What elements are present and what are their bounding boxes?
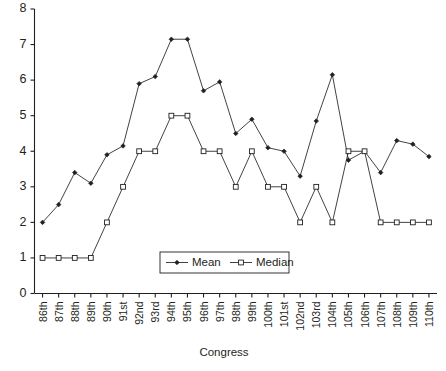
y-tick-label: 5 [20,108,27,122]
line-chart: 012345678 86th87th88th89th90th91st92nd93… [0,0,446,371]
x-tick-label: 97th [214,301,226,322]
x-tick-label: 105th [342,301,354,327]
x-tick-label: 93rd [149,301,161,322]
x-tick-label: 102nd [294,301,306,330]
x-tick-label: 100th [262,301,274,327]
x-tick-label: 106th [359,301,371,327]
y-tick-label: 8 [20,1,27,15]
data-point-median [394,220,399,225]
data-point-mean [266,145,271,150]
data-point-median [330,220,335,225]
x-tick-label: 90th [101,301,113,322]
data-point-median [233,184,238,189]
x-tick-label: 110th [423,301,435,327]
data-point-mean [169,37,174,42]
x-tick-label: 91st [117,301,129,321]
data-point-mean [121,144,126,149]
x-tick-label: 108th [391,301,403,327]
x-tick-label: 109th [407,301,419,327]
data-point-median [410,220,415,225]
y-axis: 012345678 [20,1,35,300]
x-tick-label: 101st [278,301,290,327]
data-point-median [346,149,351,154]
x-tick-label: 92nd [133,301,145,325]
data-point-median [105,220,110,225]
data-point-mean [89,181,94,186]
chart-container: 012345678 86th87th88th89th90th91st92nd93… [0,0,446,371]
data-point-mean [137,81,142,86]
x-tick-label: 89th [85,301,97,322]
data-point-mean [153,74,158,79]
legend-marker-median [239,260,244,265]
data-point-median [169,113,174,118]
x-tick-label: 98th [230,301,242,322]
y-tick-label: 2 [20,215,27,229]
data-point-mean [105,153,110,158]
y-tick-label: 6 [20,72,27,86]
y-tick-label: 0 [20,286,27,300]
data-point-median [40,256,45,261]
data-point-median [201,149,206,154]
x-tick-label: 95th [181,301,193,322]
x-tick-label: 107th [375,301,387,327]
y-tick-label: 1 [20,250,27,264]
y-tick-group [31,9,35,294]
data-point-median [378,220,383,225]
y-tick-label: 7 [20,37,27,51]
data-point-mean [330,72,335,77]
data-point-mean [201,88,206,93]
x-tick-label: 103rd [310,301,322,328]
y-tick-label: 4 [20,144,27,158]
x-tick-group [43,294,429,298]
data-point-mean [394,138,399,143]
data-point-median [121,184,126,189]
x-tick-label: 87th [53,301,65,322]
data-point-mean [185,37,190,42]
x-tick-label: 99th [246,301,258,322]
legend-label-median: Median [256,256,294,268]
x-tick-label: 94th [165,301,177,322]
x-tick-label-group: 86th87th88th89th90th91st92nd93rd94th95th… [37,301,435,330]
x-axis-title: Congress [199,346,248,358]
data-point-median [282,184,287,189]
data-point-median [266,184,271,189]
data-point-median [362,149,367,154]
data-point-median [88,256,93,261]
x-tick-label: 88th [69,301,81,322]
legend-label-mean: Mean [192,256,221,268]
y-tick-label: 3 [20,179,27,193]
data-point-mean [314,119,319,124]
data-point-mean [217,80,222,85]
data-point-median [249,149,254,154]
data-point-median [427,220,432,225]
x-axis: 86th87th88th89th90th91st92nd93rd94th95th… [35,294,438,331]
data-point-median [185,113,190,118]
x-tick-label: 96th [198,301,210,322]
data-point-median [153,149,158,154]
data-point-median [72,256,77,261]
data-point-mean [72,170,77,175]
data-point-median [314,184,319,189]
data-point-mean [282,149,287,154]
chart-legend: MeanMedian [160,252,294,273]
data-point-median [137,149,142,154]
x-tick-label: 86th [37,301,49,322]
series-layer [40,37,431,260]
series-mean [40,37,431,225]
data-point-median [56,256,61,261]
y-tick-label-group: 012345678 [20,1,27,300]
data-point-median [217,149,222,154]
x-tick-label: 104th [326,301,338,327]
data-point-median [298,220,303,225]
data-point-mean [298,174,303,179]
